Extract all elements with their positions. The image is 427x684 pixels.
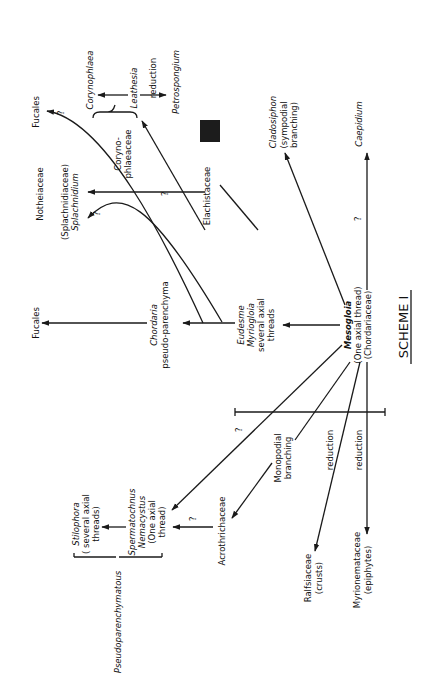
scheme-title: SCHEME I (396, 296, 411, 359)
line-eudesme-to-elachistaceae (220, 185, 258, 230)
label-cladosiphon-note-a: (sympodial (279, 102, 289, 149)
label-fucales-top: Fucales (31, 96, 41, 128)
label-fucales-left: Fucales (31, 307, 41, 339)
label-caepidium: Caepidium (354, 101, 364, 147)
label-spermatochnus: Spermatochnus (127, 488, 137, 555)
label-splachnidiaceae: (Splachnidiaceae) (60, 164, 70, 240)
connectors (42, 95, 385, 557)
label-eudesme-note-b: threads (266, 308, 276, 341)
label-splachnidium: Splachnidium (70, 173, 80, 231)
label-myrionemataceae: Myrionemataceae (352, 532, 362, 608)
arrow-mesogloia-to-spermatochnus (172, 345, 342, 510)
label-acrothrichaceae: Acrothrichaceae (217, 496, 227, 565)
label-cladosiphon-note-b: branching) (289, 102, 299, 148)
q-mark: ? (353, 216, 363, 221)
label-mesogloia-note-b: (Chordariaceae) (363, 291, 373, 360)
label-eudesme: Eudesme (236, 305, 246, 344)
label-reduction-top: reduction (148, 58, 158, 98)
label-nemacystus-note-a: (One axial (147, 500, 157, 544)
label-coryno-a: Coryno- (113, 137, 123, 170)
scheme-diagram: Fucales ? Notheiaceae (Splachnidiaceae) … (0, 0, 427, 684)
arrow-elachistaceae-to-leathesia (142, 121, 205, 230)
label-coryno-b: phlaeaceae (123, 129, 133, 178)
label-elachistaceae: Elachistaceae (202, 167, 212, 226)
arrow-mesogloia-to-cladosiphon (285, 153, 345, 305)
label-monopodial-b: branching (283, 437, 293, 480)
label-mesogloia-note-a: (One axial thread) (353, 286, 363, 363)
line-mesogloia-to-monopodial (295, 362, 350, 440)
label-stilophora: Stilophora (71, 502, 81, 545)
label-nemacystus: Nemacystus (137, 495, 147, 548)
label-ralfsiaceae: Ralfsiaceae (303, 554, 313, 603)
q-mark: ? (56, 110, 66, 115)
label-notheiaceae: Notheiaceae (35, 167, 45, 220)
label-pseudoparenchymatous: Pseudoparenchymatous (113, 570, 123, 673)
label-myriogloia: Myriogloia (246, 303, 256, 347)
q-mark: ? (92, 211, 102, 216)
label-corynophlaea: Corynophlaea (85, 50, 95, 109)
label-chordaria: Chordaria (149, 304, 159, 346)
label-petrospongium: Petrospongium (171, 50, 181, 114)
label-ralfsiaceae-note: (crusts) (314, 562, 324, 594)
label-stilophora-note-b: threads) (91, 506, 101, 542)
q-mark: ? (160, 191, 170, 196)
label-nemacystus-note-b: thread) (157, 506, 167, 537)
label-myrionemataceae-note: (epiphytes) (363, 546, 373, 594)
label-eudesme-note-a: several axial (256, 298, 266, 352)
arrow-monopodial-to-acrothrichaceae (232, 463, 272, 518)
label-mesogloia: Mesogloia (343, 300, 353, 349)
label-cladosiphon: Cladosiphon (268, 96, 278, 148)
labels: Fucales ? Notheiaceae (Splachnidiaceae) … (31, 50, 411, 673)
label-monopodial-a: Monopodial (273, 433, 283, 482)
marker-box (200, 120, 220, 142)
q-mark: ? (188, 516, 198, 521)
label-chordaria-note: pseudo-parenchyma (160, 281, 170, 368)
label-reduction-low: reduction (354, 430, 364, 470)
label-reduction-mid: reduction (325, 430, 335, 470)
label-stilophora-note-a: ( several axial (81, 494, 91, 554)
label-leathesia: Leathesia (129, 67, 139, 108)
q-mark: ? (234, 427, 244, 432)
